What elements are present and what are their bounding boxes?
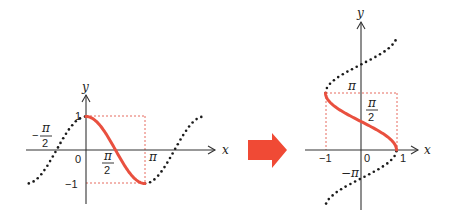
curve-dot: [182, 134, 185, 137]
curve-dot: [174, 148, 177, 151]
curve-dot: [383, 50, 386, 53]
right-y-label: y: [356, 6, 364, 20]
curve-dot: [331, 194, 334, 197]
curve-dot: [346, 70, 349, 73]
curve-dot: [340, 188, 343, 191]
left-x-label: x: [222, 143, 229, 157]
right-arrow-icon: [248, 133, 287, 168]
curve-dot: [374, 56, 377, 59]
right-x-label: x: [424, 143, 431, 157]
curve-dot: [333, 79, 336, 82]
right-tick-y-pi: π: [347, 79, 357, 93]
curve-dot: [62, 137, 65, 140]
left-tick-y-neg-one: −1: [65, 178, 78, 190]
right-tick-y-half-pi: π 2: [366, 96, 378, 123]
svg-text:π: π: [103, 149, 113, 163]
curve-dot: [28, 182, 31, 185]
curve-dot: [195, 118, 198, 121]
left-graph: x y 1 −1 0 π π 2 − π 2: [26, 80, 229, 204]
curve-dot: [171, 152, 174, 155]
curve-dot: [360, 63, 363, 66]
curve-dot: [394, 39, 397, 42]
curve-dot: [59, 142, 62, 145]
curve-dot: [36, 177, 39, 180]
right-tick-y-neg-pi: −π: [341, 166, 360, 180]
curve-dot: [71, 124, 74, 127]
svg-text:2: 2: [42, 137, 48, 149]
curve-dot: [43, 169, 46, 172]
curve-dot: [349, 183, 352, 186]
curve-dot: [65, 133, 68, 136]
curve-dot: [377, 168, 380, 171]
curve-dot: [382, 165, 385, 168]
curve-dot: [390, 159, 393, 162]
curve-dot: [200, 116, 203, 119]
right-tick-origin: 0: [364, 152, 370, 164]
curve-dot: [68, 128, 71, 131]
curve-dot: [169, 157, 172, 160]
right-graph: x y −1 0 1 π −π π 2: [305, 6, 431, 210]
right-tick-x-one: 1: [400, 152, 406, 164]
svg-text:−: −: [32, 129, 38, 141]
curve-dot: [335, 191, 338, 194]
curve-dot: [57, 146, 60, 149]
curve-dot: [379, 53, 382, 56]
curve-dot: [160, 170, 163, 173]
curve-dot: [46, 164, 49, 167]
diagram-canvas: x y 1 −1 0 π π 2 − π 2: [0, 0, 454, 220]
curve-dot: [344, 185, 347, 188]
svg-text:π: π: [41, 121, 51, 135]
curve-dot: [177, 143, 180, 146]
curve-dot: [342, 73, 345, 76]
curve-dot: [188, 125, 191, 128]
curve-dot: [391, 43, 394, 46]
curve-dot: [40, 173, 43, 176]
left-y-label: y: [81, 80, 89, 94]
left-tick-origin: 0: [75, 153, 81, 165]
curve-dot: [179, 138, 182, 141]
curve-dot: [351, 68, 354, 71]
curve-dot: [337, 76, 340, 79]
curve-dot: [363, 175, 366, 178]
curve-dot: [355, 65, 358, 68]
curve-dot: [157, 174, 160, 177]
curve-dot: [52, 155, 55, 158]
curve-dot: [365, 61, 368, 64]
curve-dot: [32, 180, 35, 183]
curve-dot: [373, 171, 376, 174]
left-tick-x-half-pi: π 2: [102, 149, 114, 176]
curve-dot: [54, 151, 57, 154]
curve-dot: [354, 180, 357, 183]
right-tick-x-neg-one: −1: [319, 152, 332, 164]
curve-dot: [393, 155, 396, 158]
curve-dot: [326, 87, 329, 90]
left-tick-x-neg-half-pi: − π 2: [32, 121, 52, 149]
svg-text:2: 2: [104, 164, 110, 176]
curve-dot: [153, 178, 156, 181]
curve-dot: [386, 162, 389, 165]
curve-dot: [166, 161, 169, 164]
curve-dot: [325, 202, 328, 205]
curve-dot: [369, 58, 372, 61]
curve-dot: [49, 160, 52, 163]
curve-dot: [163, 166, 166, 169]
svg-text:2: 2: [368, 111, 374, 123]
curve-dot: [329, 83, 332, 86]
svg-text:π: π: [367, 96, 377, 110]
curve-dot: [328, 198, 331, 201]
curve-dot: [185, 129, 188, 132]
curve-dot: [387, 47, 390, 50]
curve-dot: [191, 121, 194, 124]
curve-dot: [368, 173, 371, 176]
left-tick-y-one: 1: [75, 110, 81, 122]
left-tick-x-pi: π: [148, 150, 158, 164]
curve-dot: [149, 181, 152, 184]
